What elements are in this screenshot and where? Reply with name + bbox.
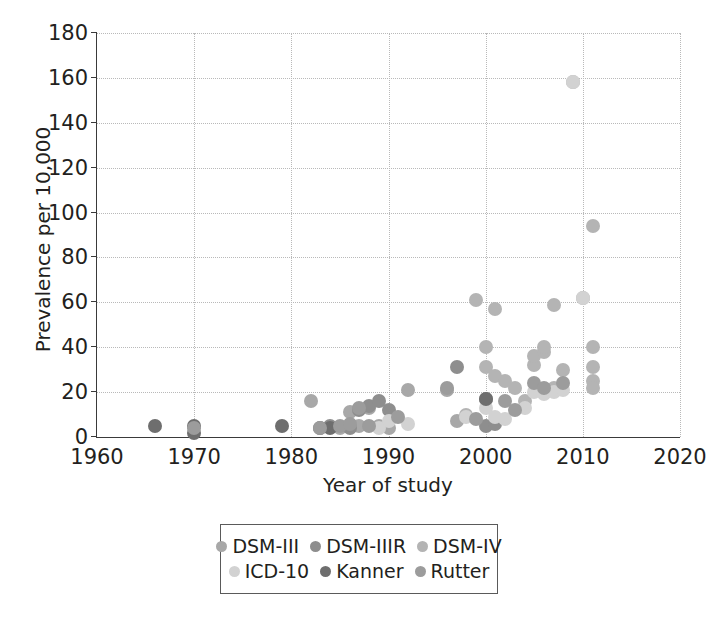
x-axis-tick-label: 1980 xyxy=(265,447,318,468)
x-axis-tick-label: 2020 xyxy=(653,447,706,468)
data-point xyxy=(469,293,483,307)
scatter-chart-figure: 0204060801001201401601801960197019801990… xyxy=(0,0,711,621)
data-point xyxy=(508,403,522,417)
x-axis-title: Year of study xyxy=(96,473,680,497)
data-point xyxy=(479,340,493,354)
data-point xyxy=(401,383,415,397)
data-point xyxy=(469,412,483,426)
plot-area: 0204060801001201401601801960197019801990… xyxy=(96,33,680,438)
data-points-layer xyxy=(97,33,680,437)
data-point xyxy=(586,340,600,354)
y-axis-tick-mark xyxy=(91,436,97,437)
data-point xyxy=(586,360,600,374)
legend-marker-icon xyxy=(229,566,240,577)
data-point xyxy=(275,419,289,433)
data-point xyxy=(352,401,366,415)
x-axis-tick-label: 1990 xyxy=(362,447,415,468)
y-axis-tick-label: 60 xyxy=(61,292,88,313)
data-point xyxy=(537,340,551,354)
data-point xyxy=(450,360,464,374)
data-point xyxy=(556,376,570,390)
y-axis-title: Prevalence per 10,000 xyxy=(26,37,60,442)
legend-item-label: Rutter xyxy=(431,562,490,581)
data-point xyxy=(440,381,454,395)
data-point xyxy=(537,381,551,395)
y-axis-tick-mark xyxy=(91,122,97,123)
legend-item-dsm-iiir[interactable]: DSM-IIIR xyxy=(310,537,406,556)
gridline-vertical xyxy=(680,33,681,437)
y-axis-tick-label: 40 xyxy=(61,337,88,358)
data-point xyxy=(479,392,493,406)
data-point xyxy=(576,291,590,305)
data-point xyxy=(547,298,561,312)
x-axis-tick-label: 2010 xyxy=(556,447,609,468)
data-point xyxy=(187,421,201,435)
y-axis-tick-mark xyxy=(91,212,97,213)
data-point xyxy=(343,417,357,431)
x-axis-tick-label: 2000 xyxy=(459,447,512,468)
y-axis-tick-mark xyxy=(91,256,97,257)
data-point xyxy=(556,363,570,377)
legend-item-kanner[interactable]: Kanner xyxy=(320,562,403,581)
legend-item-label: DSM-IV xyxy=(433,537,502,556)
x-axis-tick-label: 1970 xyxy=(167,447,220,468)
legend-item-rutter[interactable]: Rutter xyxy=(415,562,490,581)
y-axis-tick-mark xyxy=(91,32,97,33)
legend-marker-icon xyxy=(310,541,321,552)
y-axis-tick-label: 80 xyxy=(61,247,88,268)
y-axis-tick-label: 20 xyxy=(61,382,88,403)
y-axis-tick-mark xyxy=(91,346,97,347)
y-axis-tick-mark xyxy=(91,391,97,392)
chart-legend: DSM-IIIDSM-IIIRDSM-IVICD-10KannerRutter xyxy=(220,524,498,594)
legend-item-label: DSM-IIIR xyxy=(326,537,406,556)
y-axis-tick-mark xyxy=(91,167,97,168)
data-point xyxy=(488,302,502,316)
data-point xyxy=(148,419,162,433)
data-point xyxy=(586,219,600,233)
legend-row: DSM-IIIDSM-IIIRDSM-IV xyxy=(227,534,491,559)
legend-marker-icon xyxy=(216,541,227,552)
data-point xyxy=(508,381,522,395)
data-point xyxy=(313,421,327,435)
legend-item-label: ICD-10 xyxy=(245,562,310,581)
legend-marker-icon xyxy=(417,541,428,552)
x-axis-tick-label: 1960 xyxy=(70,447,123,468)
legend-marker-icon xyxy=(320,566,331,577)
legend-row: ICD-10KannerRutter xyxy=(227,559,491,584)
legend-item-label: Kanner xyxy=(336,562,403,581)
legend-item-label: DSM-III xyxy=(232,537,299,556)
legend-item-dsm-iv[interactable]: DSM-IV xyxy=(417,537,502,556)
y-axis-tick-mark xyxy=(91,77,97,78)
legend-marker-icon xyxy=(415,566,426,577)
data-point xyxy=(362,419,376,433)
data-point xyxy=(304,394,318,408)
y-axis-tick-mark xyxy=(91,301,97,302)
data-point xyxy=(586,381,600,395)
data-point xyxy=(391,410,405,424)
legend-item-dsm-iii[interactable]: DSM-III xyxy=(216,537,299,556)
legend-item-icd-10[interactable]: ICD-10 xyxy=(229,562,310,581)
data-point xyxy=(566,75,580,89)
